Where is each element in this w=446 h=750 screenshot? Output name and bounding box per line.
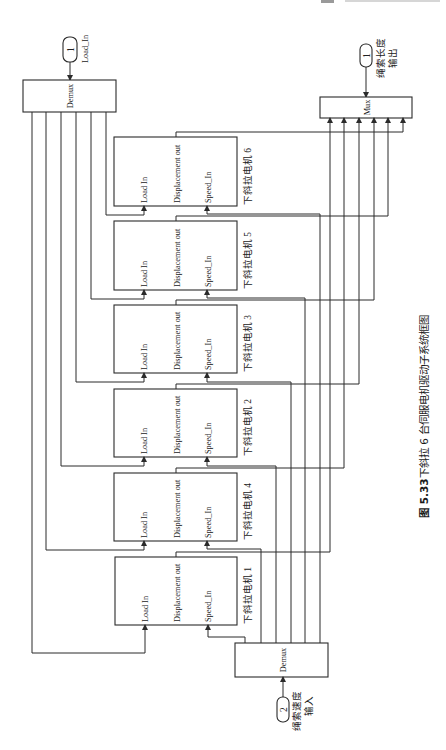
displacement-out-port-label: Displacement out [173,479,182,538]
load-in-port-label: Load In [141,595,150,622]
motor-block-2: Load In Displacement out Speed_In 下斜拉电机 … [114,389,253,457]
figure-title: 下斜拉 6 台伺服电机驱动子系统框图 [418,315,430,478]
load-in-port-label: Load In [140,427,149,454]
speed-in-port-label: Speed_In [204,422,213,454]
speed-in-port-label: Speed_In [204,338,213,370]
figure-number: 图 5.33 [418,478,430,518]
header-marker [321,0,334,3]
motor-name: 下斜拉电机 3 [242,315,253,372]
header-text-fragment [345,0,440,2]
speed-in-port-label: Speed_In [204,590,213,622]
motor-block-3: Load In Displacement out Speed_In 下斜拉电机 … [114,305,253,373]
outport-number: 1 [362,53,372,58]
inport-label: Load_In [81,34,90,63]
load-in-port-label: Load In [140,343,149,370]
speed-in-port-label: Speed_In [204,255,213,287]
motor-block-1: Load In Displacement out Speed_In 下斜拉电机 … [115,557,253,625]
inport-label-line1: 绳索速度 [291,691,302,731]
load-in-port-label: Load In [140,511,149,538]
displacement-out-port-label: Displacement out [173,563,182,622]
demux-label: Demux [279,647,288,672]
signal-line-disp-motor6 [176,118,403,137]
speed-in-port-label: Speed_In [204,506,213,538]
outport-label-line1: 绳索长度 [375,38,386,78]
motor-name: 下斜拉电机 6 [242,148,253,205]
motor-name: 下斜拉电机 1 [242,567,253,624]
displacement-out-port-label: Displacement out [173,144,182,203]
simulink-diagram: 1 Load_In Demux 1 绳索长度 输出 Mux Load In Di… [0,0,446,750]
speed-inport: 2 绳索速度 输入 [277,691,314,731]
motor-block-4: Load In Displacement out Speed_In 下斜拉电机 … [114,473,253,541]
inport-number: 2 [279,707,289,712]
displacement-out-port-label: Displacement out [173,395,182,454]
load-in-port-label: Load In [140,260,149,287]
signal-line-speed-motor1 [208,625,245,643]
bottom-demux-block: Demux [235,643,328,677]
inport-number: 1 [66,47,76,52]
load-in-port-label: Load In [140,176,149,203]
displacement-out-port-label: Displacement out [173,228,182,287]
speed-in-port-label: Speed_In [204,171,213,203]
figure-caption: 图 5.33 下斜拉 6 台伺服电机驱动子系统框图 [418,315,430,518]
outport-label-line2: 输出 [387,48,398,68]
mux-block: Mux [320,97,412,118]
inport-label-line2: 输入 [303,696,314,716]
mux-label: Mux [363,99,372,116]
load-inport: 1 Load_In [63,34,90,63]
motor-name: 下斜拉电机 4 [242,483,253,540]
demux-label: Demux [66,83,75,108]
motor-name: 下斜拉电机 5 [242,232,253,289]
motor-block-6: Load In Displacement out Speed_In 下斜拉电机 … [114,137,253,206]
motor-block-5: Load In Displacement out Speed_In 下斜拉电机 … [114,221,253,290]
motor-name: 下斜拉电机 2 [242,399,253,456]
displacement-out-port-label: Displacement out [173,311,182,370]
top-demux-block: Demux [23,80,116,112]
